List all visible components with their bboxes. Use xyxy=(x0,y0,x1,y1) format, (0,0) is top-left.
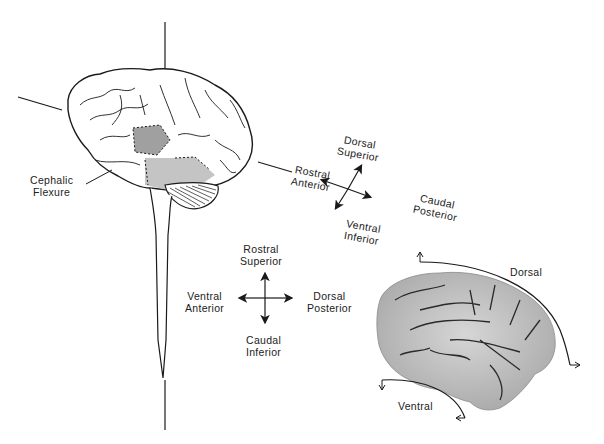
spinal-axis-right-label: Dorsal Posterior xyxy=(307,290,352,314)
label-line: Ventral xyxy=(185,290,224,302)
label-line: Caudal xyxy=(246,334,281,346)
sagittal-brain-photo xyxy=(377,252,580,418)
label-line: Ventral xyxy=(398,400,433,412)
label-line: Cephalic xyxy=(30,174,73,186)
spinal-axis-left-label: Ventral Anterior xyxy=(185,290,224,314)
label-line: Inferior xyxy=(246,346,281,358)
label-line: Flexure xyxy=(30,186,73,198)
diagram-canvas xyxy=(0,0,604,444)
label-line: Posterior xyxy=(307,302,352,314)
label-line: Dorsal xyxy=(510,266,542,278)
cephalic-flexure-label: Cephalic Flexure xyxy=(30,174,73,198)
spinal-axis-bottom-label: Caudal Inferior xyxy=(246,334,281,358)
lateral-brain-drawing xyxy=(68,69,252,378)
label-line: Dorsal xyxy=(307,290,352,302)
sagittal-ventral-label: Ventral xyxy=(398,400,433,412)
cephalic-flexure-pointer xyxy=(86,170,112,184)
spinal-direction-cross xyxy=(240,274,291,322)
spinal-axis-top-label: Rostral Superior xyxy=(240,243,282,267)
label-line: Anterior xyxy=(185,302,224,314)
label-line: Superior xyxy=(240,255,282,267)
label-line: Rostral xyxy=(240,243,282,255)
sagittal-dorsal-label: Dorsal xyxy=(510,266,542,278)
